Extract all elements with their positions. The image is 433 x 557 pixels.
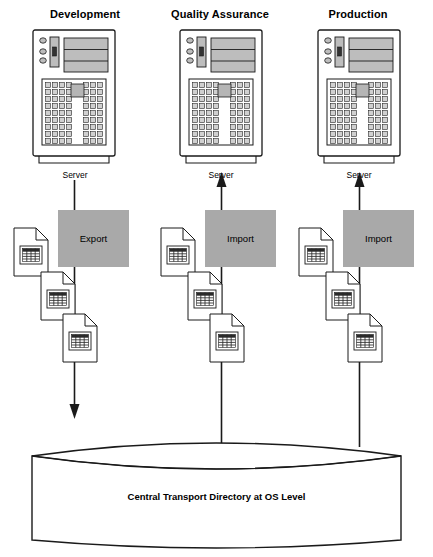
- server-label-quality-assurance: Server: [146, 170, 296, 180]
- server-label-development: Server: [0, 170, 150, 180]
- document-with-table-icon-production-1: [299, 228, 333, 276]
- column-title-development: Development: [10, 8, 160, 20]
- arrow-down-icon-development: [70, 404, 80, 419]
- transfer-box-export-development[interactable]: Export: [58, 210, 129, 267]
- server-tower-icon-development: [33, 30, 115, 163]
- transport-flow-diagram: Development Quality Assurance Production: [0, 0, 433, 557]
- document-with-table-icon-quality-assurance-2: [188, 272, 222, 320]
- transfer-box-label-development: Export: [59, 233, 128, 244]
- document-with-table-icon-quality-assurance-1: [161, 228, 195, 276]
- column-title-production: Production: [283, 8, 433, 20]
- repository-label: Central Transport Directory at OS Level: [0, 491, 433, 502]
- server-tower-icon-quality-assurance: [180, 30, 262, 163]
- transfer-box-import-quality-assurance[interactable]: Import: [205, 210, 276, 267]
- transfer-box-label-production: Import: [344, 233, 413, 244]
- document-with-table-icon-production-2: [326, 272, 360, 320]
- diagram-lineart: [0, 0, 433, 557]
- server-tower-icon-production: [318, 30, 400, 163]
- server-label-production: Server: [284, 170, 433, 180]
- document-with-table-icon-development-2: [41, 272, 75, 320]
- document-with-table-icon-development-1: [14, 228, 48, 276]
- document-with-table-icon-quality-assurance-3: [210, 314, 244, 362]
- transfer-box-label-quality-assurance: Import: [206, 233, 275, 244]
- document-with-table-icon-production-3: [348, 314, 382, 362]
- transfer-box-import-production[interactable]: Import: [343, 210, 414, 267]
- document-with-table-icon-development-3: [63, 314, 97, 362]
- column-title-quality-assurance: Quality Assurance: [145, 8, 295, 20]
